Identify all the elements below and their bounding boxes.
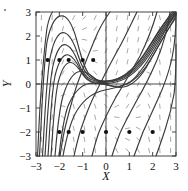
initial-condition-point: [81, 58, 85, 62]
initial-condition-point: [67, 130, 71, 134]
x-tick-label: 2: [150, 160, 156, 172]
y-tick-label: 0: [26, 78, 32, 90]
x-tick-label: 3: [173, 160, 179, 172]
y-tick-label: 1: [26, 54, 32, 66]
y-tick-label: −2: [19, 126, 31, 138]
x-tick-label: −3: [30, 160, 42, 172]
y-axis-label: Y: [0, 79, 14, 87]
x-axis-label: X: [101, 169, 110, 183]
initial-condition-point: [104, 130, 108, 134]
y-tick-label: −3: [19, 150, 31, 162]
direction-field-segment: [160, 126, 161, 131]
x-tick-label: 1: [127, 160, 133, 172]
y-tick-label: 3: [26, 6, 32, 18]
x-tick-label: −2: [53, 160, 65, 172]
y-tick-label: 2: [26, 30, 32, 42]
direction-field-segment: [52, 59, 53, 64]
initial-condition-point: [91, 58, 95, 62]
direction-field-segment: [160, 115, 161, 120]
corner-mark-icon: [4, 9, 6, 11]
initial-condition-point: [127, 130, 131, 134]
initial-condition-point: [57, 130, 61, 134]
direction-field-segment: [160, 104, 161, 109]
phase-portrait-figure: −3−2−101233210−1−2−3 X Y: [0, 0, 188, 191]
initial-condition-point: [151, 130, 155, 134]
y-tick-label: −1: [19, 102, 31, 114]
x-tick-label: −1: [77, 160, 89, 172]
plot-canvas: −3−2−101233210−1−2−3 X Y: [0, 0, 188, 191]
initial-condition-point: [57, 58, 61, 62]
initial-condition-point: [81, 130, 85, 134]
initial-condition-point: [46, 58, 50, 62]
initial-condition-point: [67, 58, 71, 62]
direction-field-segment: [52, 37, 53, 42]
